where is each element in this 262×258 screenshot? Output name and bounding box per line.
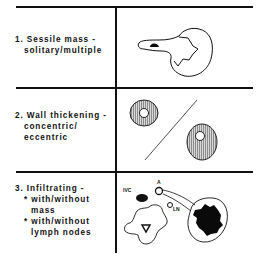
lymph-node-label: LN <box>173 206 180 212</box>
row-1-line-1: solitary/multiple <box>15 45 102 56</box>
infiltrating-figure: IVC A LN <box>117 173 253 255</box>
infiltrating-mass <box>193 204 223 236</box>
row-1-number: 1. <box>15 35 24 44</box>
row-1-label: 1. Sessile mass - solitary/multiple <box>15 34 102 56</box>
ivc-shape <box>136 194 148 202</box>
row-2-line-2: eccentric <box>15 132 107 143</box>
aorta-shape <box>156 188 163 195</box>
aorta-label: A <box>157 179 161 185</box>
row-3-bullet-1: * with/without <box>15 194 91 205</box>
sessile-mass-figure <box>117 8 253 87</box>
wall-thickening-icon <box>117 89 253 171</box>
row-3-bullet-1-cont: mass <box>15 205 91 216</box>
row-2-line-1: concentric/ <box>15 121 107 132</box>
row-1-title: Sessile mass - <box>27 35 96 44</box>
infiltrating-cross-section-icon: IVC A LN <box>117 173 253 255</box>
row-2-label: 2. Wall thickening - concentric/ eccentr… <box>15 110 107 143</box>
eccentric-ring <box>187 124 217 160</box>
row-2-number: 2. <box>15 111 24 120</box>
row-3-bullet-2: * with/without <box>15 216 91 227</box>
ivc-label: IVC <box>123 187 132 193</box>
wall-thickening-figure <box>117 89 253 171</box>
row-3-bullet-2-cont: lymph nodes <box>15 227 91 238</box>
lymph-node-shape <box>168 203 173 208</box>
row-3-label: 3. Infiltrating - * with/without mass * … <box>15 183 91 238</box>
row-2-title: Wall thickening - <box>27 111 107 120</box>
row-3-title: Infiltrating - <box>27 184 85 193</box>
bladder-with-mass-icon <box>117 8 253 87</box>
row-3-number: 3. <box>15 184 24 193</box>
